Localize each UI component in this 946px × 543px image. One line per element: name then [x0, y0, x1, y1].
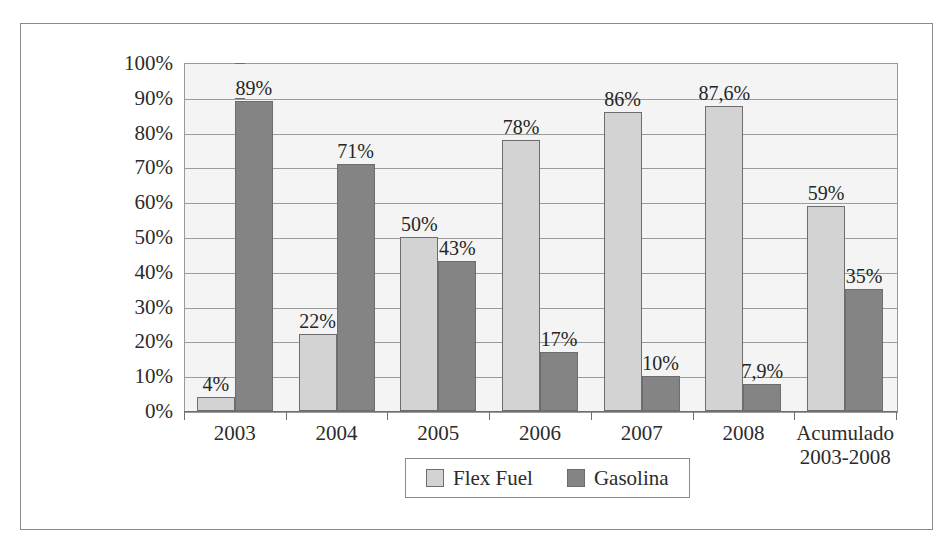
legend-swatch-icon	[567, 469, 585, 487]
bar-gasolina	[540, 352, 578, 411]
y-axis-tick-label: 20%	[81, 331, 173, 352]
gridline	[185, 168, 897, 169]
bar-gasolina	[845, 289, 883, 411]
x-axis-line	[184, 411, 896, 412]
figure-frame: 100%90%80%70%60%50%40%30%20%10%0% 4%89%2…	[20, 23, 933, 530]
y-axis-tick-label: 10%	[81, 366, 173, 387]
y-axis: 100%90%80%70%60%50%40%30%20%10%0%	[81, 63, 173, 411]
y-axis-tick-label: 40%	[81, 261, 173, 282]
y-axis-tick-label: 50%	[81, 227, 173, 248]
gridline	[185, 134, 897, 135]
bar-value-label: 10%	[642, 353, 679, 373]
x-axis-tick-mark	[387, 411, 388, 420]
y-axis-tick-mark	[235, 63, 245, 64]
gridline	[185, 308, 897, 309]
legend-item: Gasolina	[567, 468, 669, 489]
x-axis-tick-mark	[286, 411, 287, 420]
legend-label: Flex Fuel	[453, 468, 533, 489]
legend-label: Gasolina	[594, 468, 669, 489]
bar-value-label: 71%	[337, 141, 374, 161]
bar-value-label: 78%	[503, 117, 540, 137]
x-axis-tick-mark	[184, 411, 185, 420]
bar-value-label: 87,6%	[699, 83, 751, 103]
x-axis-tick-mark	[489, 411, 490, 420]
x-axis-tick-mark	[794, 411, 795, 420]
x-axis-tick-mark	[693, 411, 694, 420]
x-axis-category-label: 2003	[214, 422, 256, 446]
bar-flex-fuel	[400, 237, 438, 411]
x-axis-category-label: 2006	[519, 422, 561, 446]
bar-flex-fuel	[807, 206, 845, 411]
x-axis-tick-mark	[896, 411, 897, 420]
bar-flex-fuel	[299, 334, 337, 411]
x-axis-category-label: 2007	[621, 422, 663, 446]
bar-gasolina	[337, 164, 375, 411]
x-axis-category-label: 2005	[417, 422, 459, 446]
y-axis-tick-label: 60%	[81, 192, 173, 213]
bar-flex-fuel	[502, 140, 540, 411]
y-axis-tick-label: 70%	[81, 157, 173, 178]
bar-value-label: 86%	[604, 89, 641, 109]
x-axis-category-label: 2004	[316, 422, 358, 446]
bar-flex-fuel	[705, 106, 743, 411]
bar-value-label: 7,9%	[742, 361, 784, 381]
x-axis-category-label: Acumulado 2003-2008	[796, 422, 894, 469]
bar-value-label: 17%	[541, 329, 578, 349]
bar-flex-fuel	[197, 397, 235, 411]
bar-flex-fuel	[604, 112, 642, 411]
bar-gasolina	[642, 376, 680, 411]
bar-gasolina	[235, 101, 273, 411]
legend-item: Flex Fuel	[426, 468, 533, 489]
bar-gasolina	[438, 261, 476, 411]
x-axis-category-label: 2008	[722, 422, 764, 446]
bar-value-label: 4%	[203, 374, 230, 394]
gridline	[185, 273, 897, 274]
bar-gasolina	[743, 384, 781, 411]
bar-chart: 100%90%80%70%60%50%40%30%20%10%0% 4%89%2…	[21, 24, 934, 531]
y-axis-tick-label: 80%	[81, 122, 173, 143]
bar-value-label: 43%	[439, 238, 476, 258]
gridline	[185, 238, 897, 239]
bar-value-label: 22%	[299, 311, 336, 331]
gridline	[185, 203, 897, 204]
y-axis-tick-label: 0%	[81, 401, 173, 422]
y-axis-tick-label: 30%	[81, 296, 173, 317]
bar-value-label: 50%	[401, 214, 438, 234]
bar-value-label: 59%	[808, 183, 845, 203]
y-axis-tick-label: 90%	[81, 87, 173, 108]
x-axis-tick-mark	[591, 411, 592, 420]
chart-legend: Flex FuelGasolina	[405, 458, 690, 498]
y-axis-tick-label: 100%	[81, 53, 173, 74]
legend-swatch-icon	[426, 469, 444, 487]
bar-value-label: 89%	[236, 78, 273, 98]
gridline	[185, 99, 897, 100]
bar-value-label: 35%	[846, 266, 883, 286]
